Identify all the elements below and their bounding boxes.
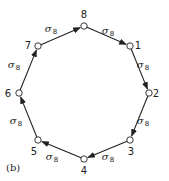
node-1 — [127, 43, 133, 49]
node-label-7: 7 — [25, 40, 31, 51]
node-label-4: 4 — [81, 165, 87, 176]
node-label-3: 3 — [128, 146, 134, 157]
edge-label-6-7: σ8 — [8, 59, 20, 72]
node-label-1: 1 — [135, 40, 141, 51]
edge-label-5-6: σ8 — [10, 115, 22, 128]
node-8 — [81, 23, 87, 29]
edge-label-subscript: 8 — [145, 64, 149, 72]
node-label-2: 2 — [153, 88, 159, 99]
node-6 — [16, 90, 22, 96]
edge-label-1-2: σ8 — [137, 59, 149, 72]
node-2 — [146, 90, 152, 96]
edge-label-subscript: 8 — [16, 64, 20, 72]
node-5 — [35, 137, 41, 143]
edge-label-subscript: 8 — [53, 28, 57, 36]
edge-label-subscript: 8 — [110, 30, 114, 38]
nodes-group: 12345678 — [5, 9, 159, 176]
panel-label: (b) — [6, 162, 20, 173]
node-label-5: 5 — [31, 146, 37, 157]
node-4 — [81, 156, 87, 162]
node-7 — [35, 43, 41, 49]
edge-label-7-8: σ8 — [45, 23, 57, 36]
edge-label-subscript: 8 — [145, 120, 149, 128]
edge-label-subscript: 8 — [18, 120, 22, 128]
edge-label-4-5: σ8 — [46, 151, 58, 164]
node-3 — [127, 137, 133, 143]
edge-5-to-6 — [21, 97, 37, 137]
node-label-8: 8 — [81, 9, 87, 20]
edge-label-3-4: σ8 — [102, 151, 114, 164]
node-label-6: 6 — [5, 88, 11, 99]
edge-label-2-3: σ8 — [137, 115, 149, 128]
cyclic-graph-diagram: σ8σ8σ8σ8σ8σ8σ8σ8 12345678 (b) — [0, 0, 169, 181]
edge-label-subscript: 8 — [110, 156, 114, 164]
edge-label-subscript: 8 — [54, 156, 58, 164]
edge-6-to-7 — [20, 50, 36, 90]
